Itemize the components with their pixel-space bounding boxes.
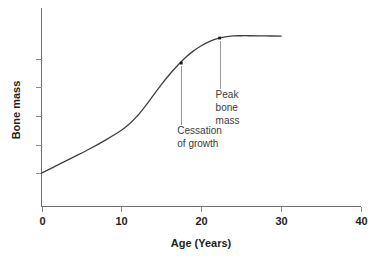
x-tick-label: 40 [355,215,367,227]
x-tick-label: 10 [115,215,127,227]
annotation-label-line: Cessation [177,125,221,136]
annotation-label-line: bone [216,102,239,113]
y-axis-title: Bone mass [10,81,22,140]
annotation-point-marker [218,37,221,40]
annotation-label-line: Peak [216,89,240,100]
bone-mass-chart: 010203040 Cessationof growthPeakbonemass… [0,0,373,262]
x-axis-title: Age (Years) [171,237,232,249]
annotation-point-marker [180,62,183,65]
annotation-label-line: of growth [177,138,218,149]
x-tick-label: 30 [275,215,287,227]
x-tick-label: 20 [195,215,207,227]
x-tick-label: 0 [39,215,45,227]
annotation-label-line: mass [216,115,240,126]
chart-canvas: 010203040 Cessationof growthPeakbonemass… [0,0,373,262]
